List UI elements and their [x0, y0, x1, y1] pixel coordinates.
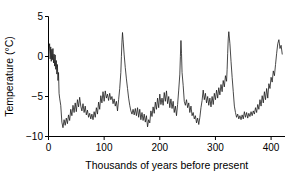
temperature-chart-figure: 50−5−100100200300400Thousands of years b…	[0, 0, 298, 184]
temperature-series-line	[49, 32, 283, 128]
x-tick-label: 400	[263, 142, 280, 153]
x-tick-label: 0	[46, 142, 52, 153]
chart-canvas: 50−5−100100200300400Thousands of years b…	[0, 0, 298, 184]
y-tick-label: −5	[32, 91, 44, 102]
x-tick-label: 100	[96, 142, 113, 153]
x-tick-label: 300	[207, 142, 224, 153]
x-tick-label: 200	[151, 142, 168, 153]
y-tick-label: 0	[37, 51, 43, 62]
x-axis-title: Thousands of years before present	[85, 159, 248, 171]
y-axis-title: Temperature (°C)	[3, 36, 15, 117]
axis-spines	[49, 17, 286, 137]
y-tick-label: −10	[26, 131, 43, 142]
y-tick-label: 5	[37, 11, 43, 22]
